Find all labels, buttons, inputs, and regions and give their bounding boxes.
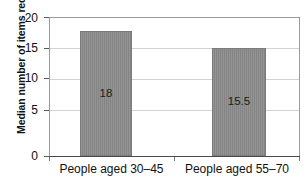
x-tick-mark-start	[49, 157, 50, 161]
y-tick-label-0: 0	[14, 150, 38, 162]
x-category-label-1: People aged 30–45	[49, 162, 174, 176]
bar-chart: Median number of items recalled 20 15 10…	[0, 0, 307, 178]
plot-area: 18 15.5	[49, 17, 300, 157]
bar-people-aged-55-70[interactable]: 15.5	[212, 48, 266, 156]
y-tick-label-10: 10	[14, 72, 38, 84]
y-tick-label-5: 5	[14, 104, 38, 116]
x-category-label-2: People aged 55–70	[174, 162, 300, 176]
x-tick-mark-middle	[174, 157, 175, 161]
bar-people-aged-30-45[interactable]: 18	[80, 31, 132, 156]
bar-value-label-2: 15.5	[213, 95, 265, 107]
y-tick-label-15: 15	[14, 42, 38, 54]
y-tick-label-20: 20	[14, 12, 38, 24]
x-tick-mark-end	[299, 157, 300, 161]
bar-value-label-1: 18	[81, 87, 131, 99]
